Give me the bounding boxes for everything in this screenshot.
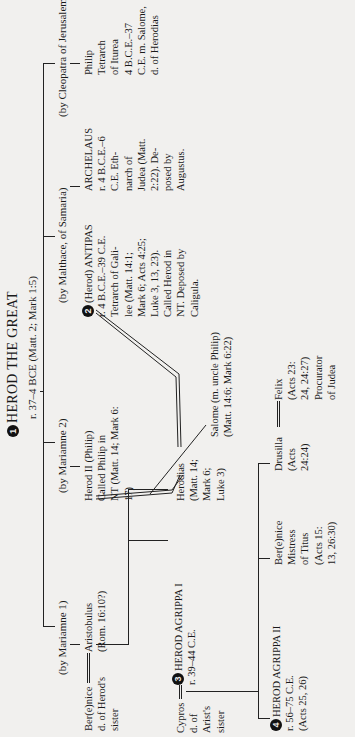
marriage-drusilla-felix xyxy=(277,401,280,427)
person-cypros: Cypros d. of Arist's sister xyxy=(174,703,227,733)
marriage-cypros-agrippa-i xyxy=(179,685,182,699)
person-agrippa-ii: 4HEROD AGRIPPA II r. 56–75 C.E. (Acts 25… xyxy=(270,626,310,731)
drop-agrippa-ii xyxy=(258,718,270,719)
number-badge-4: 4 xyxy=(270,719,282,731)
herod-family-tree: 1HEROD THE GREAT r. 37–4 BCE (Matt. 2; M… xyxy=(0,0,355,737)
drop-berenice xyxy=(258,558,270,559)
person-berenice: Ber(e)nice Mistress of Titus (Acts 15: 1… xyxy=(272,521,338,565)
person-felix: Felix (Acts 23: 24, 24:27) Procurator of… xyxy=(272,356,338,400)
person-drusilla: Drusilla (Acts 24:24) xyxy=(272,437,312,471)
bar-agrippa-i-children xyxy=(258,464,259,719)
person-salome: Salome (m. uncle Philip) (Matt. 14:6; Ma… xyxy=(208,332,234,437)
drop-drusilla xyxy=(258,463,270,464)
stem-agrippa-i-children xyxy=(186,691,258,692)
number-badge-3: 3 xyxy=(172,673,184,685)
person-agrippa-i: 3HEROD AGRIPPA I r. 39–44 C.E. xyxy=(172,583,198,685)
person-herodias: Herodias (Matt. 14; Mark 6; Luke 3) xyxy=(174,459,227,501)
